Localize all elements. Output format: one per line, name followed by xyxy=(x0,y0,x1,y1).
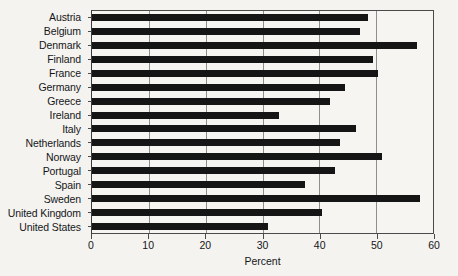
y-axis-label: Denmark xyxy=(39,40,81,51)
bar-row xyxy=(92,122,433,136)
y-axis-label-row: United States xyxy=(0,220,86,234)
bar-row xyxy=(92,94,433,108)
y-axis-label: Germany xyxy=(39,82,81,93)
y-axis-label: Finland xyxy=(47,54,81,65)
y-axis-label: Greece xyxy=(47,96,81,107)
bar xyxy=(92,56,373,63)
bar xyxy=(92,209,322,216)
y-axis-label-row: Portugal xyxy=(0,164,86,178)
y-axis-label: Portugal xyxy=(43,166,81,177)
y-axis-label-row: Spain xyxy=(0,178,86,192)
x-axis-tick-labels: 0102030405060 xyxy=(91,240,434,254)
bar xyxy=(92,28,360,35)
y-axis-label-row: Denmark xyxy=(0,38,86,52)
y-axis-label: Italy xyxy=(62,124,81,135)
x-axis-tick-label: 10 xyxy=(142,240,154,251)
bar-row xyxy=(92,39,433,53)
x-axis-tick-label: 50 xyxy=(371,240,383,251)
y-axis-label-row: Sweden xyxy=(0,192,86,206)
y-axis-label-row: Greece xyxy=(0,94,86,108)
bar-chart: AustriaBelgiumDenmarkFinlandFranceGerman… xyxy=(0,0,458,276)
bar-row xyxy=(92,191,433,205)
bar xyxy=(92,125,356,132)
y-axis-label-row: United Kingdom xyxy=(0,206,86,220)
x-axis-tick-label: 0 xyxy=(88,240,94,251)
x-axis-title: Percent xyxy=(91,256,434,267)
y-axis-label-row: Norway xyxy=(0,150,86,164)
y-axis-label: Belgium xyxy=(44,26,81,37)
bar xyxy=(92,112,279,119)
bar-row xyxy=(92,108,433,122)
y-axis-label-row: Netherlands xyxy=(0,136,86,150)
y-axis-label: Spain xyxy=(55,180,81,191)
bar xyxy=(92,98,330,105)
bar-row xyxy=(92,53,433,67)
y-axis-label: Austria xyxy=(49,12,81,23)
bar-series xyxy=(92,11,433,233)
bar xyxy=(92,167,335,174)
bar-row xyxy=(92,219,433,233)
bar-row xyxy=(92,150,433,164)
bar-row xyxy=(92,164,433,178)
bar xyxy=(92,139,340,146)
y-axis-label: United States xyxy=(19,222,81,233)
bar xyxy=(92,84,345,91)
bar-row xyxy=(92,11,433,25)
y-axis-label-row: France xyxy=(0,66,86,80)
bar-row xyxy=(92,178,433,192)
x-axis-tick-label: 40 xyxy=(314,240,326,251)
bar xyxy=(92,14,368,21)
y-axis-label-row: Ireland xyxy=(0,108,86,122)
bar-row xyxy=(92,205,433,219)
y-axis-label-row: Germany xyxy=(0,80,86,94)
y-axis-label: United Kingdom xyxy=(8,208,81,219)
x-axis-tick-label: 30 xyxy=(257,240,269,251)
bar-row xyxy=(92,136,433,150)
bar xyxy=(92,181,305,188)
y-axis-label: France xyxy=(49,68,81,79)
bar xyxy=(92,195,420,202)
bar xyxy=(92,70,378,77)
y-axis-label: Norway xyxy=(46,152,81,163)
plot-area xyxy=(91,10,434,234)
x-axis-tick-label: 20 xyxy=(199,240,211,251)
y-axis-label-row: Austria xyxy=(0,10,86,24)
bar-row xyxy=(92,80,433,94)
bar-row xyxy=(92,67,433,81)
y-axis-label: Netherlands xyxy=(25,138,81,149)
bar-row xyxy=(92,25,433,39)
y-axis-label-row: Belgium xyxy=(0,24,86,38)
y-axis-label-row: Italy xyxy=(0,122,86,136)
y-axis-label-row: Finland xyxy=(0,52,86,66)
y-axis-category-labels: AustriaBelgiumDenmarkFinlandFranceGerman… xyxy=(0,10,86,234)
bar xyxy=(92,153,382,160)
y-axis-label: Sweden xyxy=(44,194,81,205)
bar xyxy=(92,223,268,230)
bar xyxy=(92,42,417,49)
x-axis-tick-label: 60 xyxy=(428,240,440,251)
y-axis-label: Ireland xyxy=(50,110,81,121)
